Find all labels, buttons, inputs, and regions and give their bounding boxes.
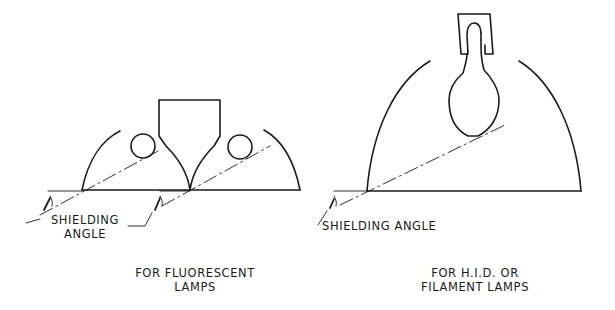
callout-text: SHIELDING ANGLE [322,219,436,233]
sight-lines-left [40,146,270,215]
caption-line-1: FOR FLUORESCENT [100,266,290,280]
caption-line-1: FOR H.I.D. OR [380,266,570,280]
left-reflector-arc [367,61,430,191]
fluorescent-lamp-right [228,135,252,159]
hid-caption: FOR H.I.D. OR FILAMENT LAMPS [380,266,570,294]
caption-line-2: LAMPS [100,280,290,294]
left-reflector-arc [82,131,120,190]
shielding-angle-label-right: SHIELDING ANGLE [322,219,436,233]
shielding-angle-label-left: SHIELDING ANGLE [30,213,140,241]
right-reflector-arc [519,61,581,191]
fluorescent-fixture [82,100,300,190]
callout-line-1: SHIELDING [30,213,140,227]
sight-line-right [340,125,505,205]
hid-fixture [367,14,581,191]
shielding-angle-diagram [0,0,615,310]
fluorescent-caption: FOR FLUORESCENT LAMPS [100,266,290,294]
callout-line-2: ANGLE [30,227,140,241]
lamp-socket [458,14,493,54]
right-reflector-arc [264,130,300,190]
center-housing [159,100,220,190]
caption-line-2: FILAMENT LAMPS [380,280,570,294]
